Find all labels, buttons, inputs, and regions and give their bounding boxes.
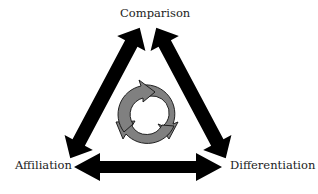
- label-differentiation: Differentiation: [230, 158, 315, 172]
- label-affiliation: Affiliation: [15, 158, 72, 172]
- cycle-icon: [116, 80, 178, 143]
- label-comparison: Comparison: [120, 6, 190, 20]
- double-arrow-affiliation-differentiation: [74, 153, 222, 181]
